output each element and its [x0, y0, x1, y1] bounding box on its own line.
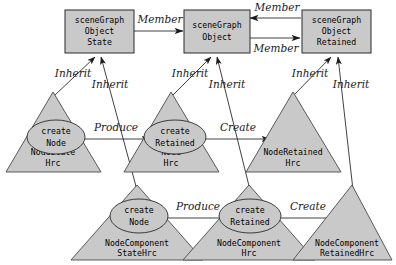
inherit-node-component-hrc-label: Inherit — [208, 78, 246, 90]
create-node-component-label-line2: Node — [129, 217, 149, 227]
member-object-to-retained-label: Member — [253, 42, 300, 54]
edge-inherit-node-retained-hrc: Inherit — [291, 57, 331, 96]
edge-produce-top: Produce — [85, 121, 150, 139]
node-component-state-hrc-label-line1: NodeComponent — [105, 238, 169, 248]
ellipse-create-retained-component[interactable]: create Retained — [219, 199, 281, 233]
create-retained-component-label-line1: create — [235, 205, 265, 215]
box-scene-graph-object-retained[interactable]: sceneGraph Object Retained — [302, 10, 371, 53]
diagram-svg: Member Member Member Inherit Inherit Inh… — [0, 0, 396, 265]
create-top-label: Create — [220, 121, 256, 133]
create-node-state-label-line2: Node — [46, 138, 66, 148]
scene-graph-object-retained-line3: Retained — [317, 37, 357, 47]
node-retained-hrc-label-line2: Hrc — [286, 158, 301, 168]
inherit-node-state-hrc-label: Inherit — [54, 67, 92, 79]
produce-top-label: Produce — [93, 121, 138, 133]
box-scene-graph-object-state[interactable]: sceneGraph Object State — [65, 10, 134, 53]
triangle-node-retained-hrc[interactable]: NodeRetained Hrc — [246, 92, 341, 172]
node-component-retained-hrc-label-line1: NodeComponent — [315, 238, 379, 248]
create-bottom-label: Create — [290, 200, 326, 212]
node-component-hrc-label-line1: NodeComponent — [217, 238, 281, 248]
scene-graph-object-retained-line1: sceneGraph — [312, 15, 361, 25]
ellipse-create-retained-node[interactable]: create Retained — [144, 120, 206, 154]
node-retained-hrc-label-line1: NodeRetained — [263, 147, 322, 157]
edge-member-state-to-object: Member — [134, 13, 183, 31]
scene-graph-object-state-line1: sceneGraph — [75, 15, 124, 25]
inherit-node-component-state-hrc-label: Inherit — [91, 78, 129, 90]
edge-member-retained-to-object: Member — [250, 1, 301, 18]
scene-graph-object-state-line2: Object — [85, 26, 115, 36]
scene-graph-object-state-line3: State — [87, 37, 112, 47]
edge-create-top: Create — [205, 121, 270, 139]
node-state-hrc-label-line2: Hrc — [46, 158, 61, 168]
ellipse-create-node-state[interactable]: create Node — [27, 120, 85, 154]
node-component-state-hrc-label-line2: StateHrc — [117, 248, 157, 258]
produce-bottom-label: Produce — [175, 200, 220, 212]
inherit-node-component-retained-hrc-label: Inherit — [332, 78, 370, 90]
inherit-node-hrc-label: Inherit — [171, 67, 209, 79]
triangle-node-component-retained-hrc[interactable]: NodeComponent RetainedHrc — [293, 185, 392, 260]
node-hrc-label-line2: Hrc — [164, 158, 179, 168]
edge-inherit-node-state-hrc: Inherit — [54, 57, 95, 96]
box-scene-graph-object[interactable]: sceneGraph Object — [184, 10, 250, 53]
scene-graph-object-line1: sceneGraph — [192, 20, 241, 30]
inherit-node-retained-hrc-label: Inherit — [291, 67, 329, 79]
member-retained-to-object-label: Member — [254, 1, 301, 13]
create-node-component-label-line1: create — [124, 205, 154, 215]
edge-inherit-node-hrc: Inherit — [171, 57, 211, 96]
node-component-hrc-label-line2: Hrc — [242, 248, 257, 258]
diagram-canvas: Member Member Member Inherit Inherit Inh… — [0, 0, 396, 265]
node-component-retained-hrc-label-line2: RetainedHrc — [320, 248, 374, 258]
scene-graph-object-line2: Object — [202, 32, 232, 42]
edge-member-object-to-retained: Member — [250, 38, 300, 54]
create-retained-node-label-line2: Retained — [155, 138, 195, 148]
create-node-state-label-line1: create — [41, 126, 71, 136]
member-state-to-object-label: Member — [137, 13, 184, 25]
create-retained-component-label-line2: Retained — [230, 217, 270, 227]
create-retained-node-label-line1: create — [160, 126, 190, 136]
ellipse-create-node-component[interactable]: create Node — [110, 199, 168, 233]
scene-graph-object-retained-line2: Object — [322, 26, 352, 36]
